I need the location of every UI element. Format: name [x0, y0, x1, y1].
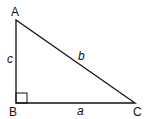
vertex-b-label: B	[9, 105, 17, 119]
vertex-c-label: C	[133, 105, 142, 119]
side-a-label: a	[77, 104, 84, 118]
right-angle-marker	[16, 93, 27, 103]
triangle-outline	[16, 20, 135, 103]
right-triangle-diagram: A B C a b c	[0, 0, 145, 119]
side-b-label: b	[78, 49, 85, 63]
side-c-label: c	[7, 52, 13, 66]
vertex-a-label: A	[11, 5, 19, 19]
